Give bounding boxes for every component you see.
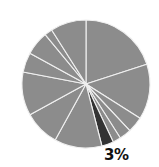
pie-chart xyxy=(0,0,159,167)
highlighted-slice-label: 3% xyxy=(104,146,128,164)
